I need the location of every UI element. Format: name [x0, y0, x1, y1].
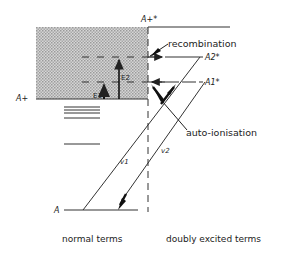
- v2-label: v2: [161, 147, 170, 155]
- e1-label: E1: [93, 92, 102, 100]
- atom-label: A: [53, 206, 59, 215]
- v1-label: v1: [120, 158, 129, 166]
- a1-level-label: A1*: [204, 78, 220, 87]
- ion-label: A+: [15, 94, 28, 103]
- normal-term-levels: [64, 107, 100, 144]
- ionisation-continuum-region: [36, 27, 148, 99]
- recombination-label: recombination: [168, 38, 237, 49]
- a2-level-label: A2*: [204, 53, 220, 62]
- normal-terms-label: normal terms: [62, 234, 123, 244]
- auto-ionisation-label: auto-ionisation: [186, 127, 257, 138]
- doubly-excited-terms-label: doubly excited terms: [166, 234, 261, 244]
- energy-level-diagram: A+* A+ A A2* A1* E1 E2 v1 v2 recombinati…: [0, 0, 289, 257]
- ion-excited-label: A+*: [140, 15, 157, 24]
- e2-label: E2: [121, 74, 130, 82]
